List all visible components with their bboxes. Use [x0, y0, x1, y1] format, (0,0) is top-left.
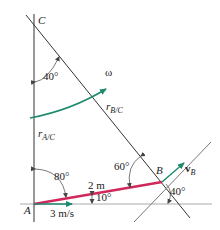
- angle-label-10: 10°: [96, 191, 111, 203]
- label-A: A: [23, 204, 31, 216]
- angle-label-B-lower: 40°: [170, 185, 185, 197]
- label-B: B: [156, 164, 163, 176]
- label-C: C: [38, 14, 46, 26]
- r-BC-label: rB/C: [106, 100, 123, 115]
- bar-length-label: 2 m: [88, 179, 105, 191]
- speed-A-label: 3 m/s: [50, 207, 74, 219]
- omega-label: ω: [105, 66, 112, 78]
- r-AC-label: rA/C: [38, 127, 55, 142]
- angle-label-A: 80°: [54, 170, 69, 182]
- vB-label: vB: [185, 162, 196, 177]
- kinematics-diagram: C A B 40° 80° 60° 40° 10° ω rB/C rA/C vB…: [0, 0, 220, 230]
- angle-label-C: 40°: [43, 70, 58, 82]
- line-CB: [26, 15, 190, 218]
- omega-arc-arrow: [30, 89, 106, 118]
- angle-label-B-upper: 60°: [114, 160, 129, 172]
- velocity-B-arrow: [162, 163, 184, 182]
- line-vB-direction: [134, 142, 211, 222]
- angle-arc-B-upper: [129, 156, 141, 187]
